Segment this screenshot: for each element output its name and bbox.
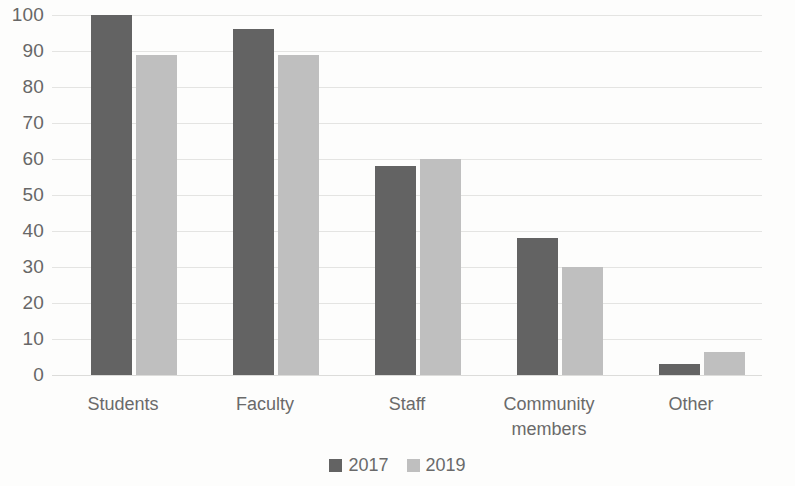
category-label: Communitymembers	[478, 392, 620, 442]
category-label-line: members	[478, 417, 620, 442]
bar-group	[194, 15, 336, 375]
bar-group	[620, 15, 762, 375]
bar-community-members-2019	[562, 267, 603, 375]
category-label-line: Faculty	[194, 392, 336, 417]
y-axis-tick-label: 70	[0, 112, 44, 134]
y-axis-tick-label: 30	[0, 256, 44, 278]
legend-item-2017[interactable]: 2017	[329, 455, 388, 476]
legend-item-2019[interactable]: 2019	[407, 455, 466, 476]
category-label: Faculty	[194, 392, 336, 417]
y-axis-tick-label: 60	[0, 148, 44, 170]
y-axis-tick-label: 50	[0, 184, 44, 206]
plot-area	[52, 15, 762, 375]
y-axis-tick-label: 20	[0, 292, 44, 314]
bar-faculty-2019	[278, 55, 319, 375]
category-label-line: Staff	[336, 392, 478, 417]
gridline	[52, 375, 762, 376]
legend-label: 2017	[348, 455, 388, 476]
category-label-line: Community	[478, 392, 620, 417]
y-axis-tick-label: 0	[0, 364, 44, 386]
bar-group	[478, 15, 620, 375]
bar-other-2017	[659, 364, 700, 375]
y-axis: 0102030405060708090100	[0, 0, 44, 390]
bar-other-2019	[704, 352, 745, 375]
y-axis-tick-label: 100	[0, 4, 44, 26]
bar-chart: 0102030405060708090100 StudentsFacultySt…	[0, 0, 795, 486]
bar-students-2019	[136, 55, 177, 375]
bar-staff-2019	[420, 159, 461, 375]
y-axis-tick-label: 80	[0, 76, 44, 98]
legend-swatch-icon	[407, 459, 420, 472]
category-label: Students	[52, 392, 194, 417]
category-label-line: Students	[52, 392, 194, 417]
bar-community-members-2017	[517, 238, 558, 375]
bar-faculty-2017	[233, 29, 274, 375]
bar-students-2017	[91, 15, 132, 375]
category-label-line: Other	[620, 392, 762, 417]
category-label: Other	[620, 392, 762, 417]
y-axis-tick-label: 10	[0, 328, 44, 350]
bar-staff-2017	[375, 166, 416, 375]
legend-label: 2019	[426, 455, 466, 476]
y-axis-tick-label: 90	[0, 40, 44, 62]
bar-group	[336, 15, 478, 375]
bar-group	[52, 15, 194, 375]
y-axis-tick-label: 40	[0, 220, 44, 242]
legend-swatch-icon	[329, 459, 342, 472]
chart-legend: 20172019	[0, 455, 795, 476]
category-label: Staff	[336, 392, 478, 417]
